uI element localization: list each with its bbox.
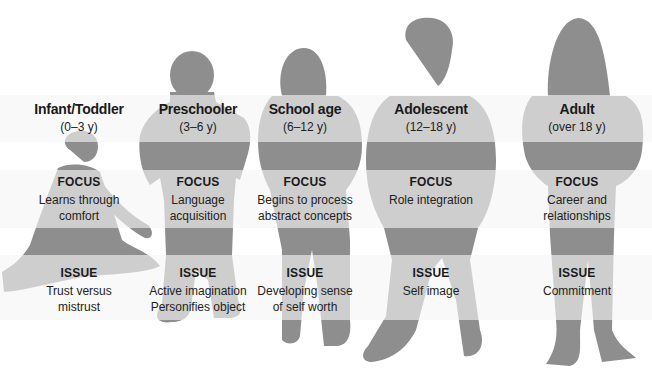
issue-header: ISSUE bbox=[14, 266, 144, 280]
focus-line: Learns through bbox=[14, 192, 144, 208]
issue-school-age: ISSUE Developing senseof self worth bbox=[240, 266, 370, 315]
stage-age: (0–3 y) bbox=[14, 120, 144, 134]
stage-age: (12–18 y) bbox=[366, 120, 496, 134]
issue-adult: ISSUE Commitment bbox=[512, 266, 642, 299]
stage-column-infant: Infant/Toddler (0–3 y) bbox=[14, 101, 144, 134]
issue-line: Self image bbox=[366, 283, 496, 299]
issue-line: Commitment bbox=[512, 283, 642, 299]
stage-title: Adolescent bbox=[366, 101, 496, 117]
issue-infant: ISSUE Trust versusmistrust bbox=[14, 266, 144, 315]
focus-line: abstract concepts bbox=[240, 208, 370, 224]
focus-infant: FOCUS Learns throughcomfort bbox=[14, 175, 144, 224]
stage-title: School age bbox=[240, 101, 370, 117]
issue-header: ISSUE bbox=[512, 266, 642, 280]
issue-header: ISSUE bbox=[366, 266, 496, 280]
focus-line: Begins to process bbox=[240, 192, 370, 208]
focus-line: comfort bbox=[14, 208, 144, 224]
issue-adolescent: ISSUE Self image bbox=[366, 266, 496, 299]
stage-age: (6–12 y) bbox=[240, 120, 370, 134]
stage-column-school-age: School age (6–12 y) bbox=[240, 101, 370, 134]
stage-title: Adult bbox=[512, 101, 642, 117]
issue-line: Trust versus bbox=[14, 283, 144, 299]
focus-line: Role integration bbox=[366, 192, 496, 208]
stage-age: (over 18 y) bbox=[512, 120, 642, 134]
stage-column-adult: Adult (over 18 y) bbox=[512, 101, 642, 134]
focus-line: Career and bbox=[512, 192, 642, 208]
focus-header: FOCUS bbox=[512, 175, 642, 189]
focus-header: FOCUS bbox=[366, 175, 496, 189]
issue-line: mistrust bbox=[14, 299, 144, 315]
focus-adult: FOCUS Career andrelationships bbox=[512, 175, 642, 224]
issue-line: Developing sense bbox=[240, 283, 370, 299]
issue-header: ISSUE bbox=[240, 266, 370, 280]
issue-line: of self worth bbox=[240, 299, 370, 315]
focus-header: FOCUS bbox=[14, 175, 144, 189]
stage-title: Infant/Toddler bbox=[14, 101, 144, 117]
focus-adolescent: FOCUS Role integration bbox=[366, 175, 496, 208]
focus-school-age: FOCUS Begins to processabstract concepts bbox=[240, 175, 370, 224]
stage-column-adolescent: Adolescent (12–18 y) bbox=[366, 101, 496, 134]
focus-line: relationships bbox=[512, 208, 642, 224]
focus-header: FOCUS bbox=[240, 175, 370, 189]
developmental-stages-diagram: Infant/Toddler (0–3 y) FOCUS Learns thro… bbox=[0, 0, 652, 387]
